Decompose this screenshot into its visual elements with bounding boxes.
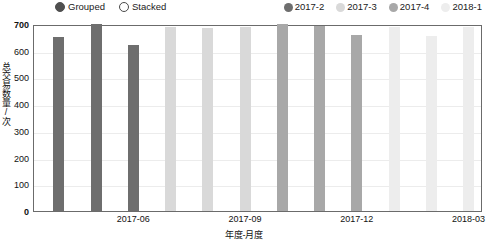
legend-label: 2017-2 [295, 2, 325, 12]
radio-option-stacked[interactable]: Stacked [119, 2, 166, 12]
radio-empty-icon[interactable] [119, 2, 129, 12]
legend-swatch-icon [336, 3, 345, 12]
chart-toolbar: GroupedStacked 2017-22017-32017-42018-1 [0, 0, 488, 22]
bar-2018-03[interactable] [463, 27, 474, 211]
bar-2017-12[interactable] [351, 35, 362, 211]
bar-2017-11[interactable] [314, 26, 325, 211]
x-tick-label: 2017-09 [229, 214, 262, 224]
plot-area [33, 25, 482, 212]
y-tick-label: 600 [14, 47, 29, 57]
legend-label: 2017-4 [400, 2, 430, 12]
x-axis-ticks: 2017-062017-092017-122018-03 [33, 214, 482, 228]
legend-item-2018-1[interactable]: 2018-1 [441, 2, 482, 12]
radio-filled-icon[interactable] [55, 2, 65, 12]
legend-item-2017-2[interactable]: 2017-2 [284, 2, 325, 12]
legend-label: 2018-1 [452, 2, 482, 12]
x-axis-title: 年度-月度 [0, 228, 488, 241]
bar-series-layer [34, 26, 481, 211]
legend-swatch-icon [284, 3, 293, 12]
bar-2017-05[interactable] [91, 24, 102, 211]
bar-2017-04[interactable] [53, 37, 64, 211]
bar-2017-08[interactable] [202, 28, 213, 211]
y-tick-label: 500 [14, 73, 29, 83]
y-tick-label: 200 [14, 154, 29, 164]
x-tick-label: 2017-12 [340, 214, 373, 224]
bar-mode-radio-group[interactable]: GroupedStacked [55, 2, 166, 12]
legend-item-2017-3[interactable]: 2017-3 [336, 2, 377, 12]
bar-2017-07[interactable] [165, 27, 176, 211]
radio-option-grouped[interactable]: Grouped [55, 2, 105, 12]
bar-2018-01[interactable] [389, 27, 400, 211]
y-axis-title: 总交易数量/次 [1, 62, 11, 126]
bar-2017-06[interactable] [128, 45, 139, 211]
y-tick-label: 0 [24, 207, 29, 217]
y-tick-label: 300 [14, 127, 29, 137]
legend-swatch-icon [389, 3, 398, 12]
legend-item-2017-4[interactable]: 2017-4 [389, 2, 430, 12]
bar-2018-02[interactable] [426, 36, 437, 211]
legend-swatch-icon [441, 3, 450, 12]
bar-2017-09[interactable] [240, 27, 251, 211]
chart-page: GroupedStacked 2017-22017-32017-42018-1 … [0, 0, 488, 248]
y-tick-label: 400 [14, 100, 29, 110]
radio-option-label: Grouped [68, 2, 105, 12]
y-tick-label: 700 [14, 20, 29, 30]
y-tick-label: 100 [14, 180, 29, 190]
legend-label: 2017-3 [347, 2, 377, 12]
series-legend: 2017-22017-32017-42018-1 [284, 2, 482, 12]
bar-2017-10[interactable] [277, 24, 288, 211]
radio-option-label: Stacked [132, 2, 166, 12]
x-tick-label: 2017-06 [117, 214, 150, 224]
x-tick-label: 2018-03 [452, 214, 485, 224]
